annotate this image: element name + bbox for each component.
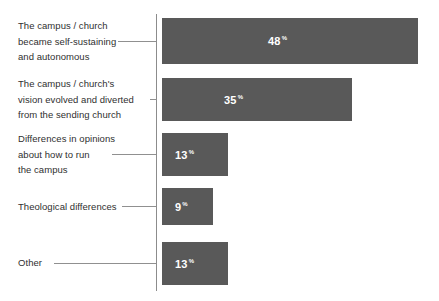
category-label: The campus / church's vision evolved and… [18,76,166,123]
bar-value-label: 13% [175,258,194,270]
chart-row: Theological differences 9% [0,188,439,225]
chart-row: Other 13% [0,242,439,285]
bar-value-label: 48% [268,35,287,47]
category-label-line: Differences in opinions [18,131,166,147]
percent-symbol: % [189,149,195,155]
plot-area: The campus / church became self-sustaini… [0,0,439,301]
bar-48: 48% [162,18,418,64]
category-label-line: and autonomous [18,49,166,65]
percent-symbol: % [189,258,195,264]
bar-value-number: 35 [224,93,237,105]
bar-13-opinions: 13% [162,133,228,176]
percent-symbol: % [282,35,288,41]
chart-row: Differences in opinions about how to run… [0,133,439,176]
bar-value-label: 13% [175,149,194,161]
leader-line [112,154,156,155]
leader-line [122,206,156,207]
chart-row: The campus / church became self-sustaini… [0,18,439,64]
leader-line [118,41,156,42]
bar-chart: The campus / church became self-sustaini… [0,0,439,301]
bar-35: 35% [162,78,352,121]
category-label-line: The campus / church [18,18,166,34]
category-label-line: The campus / church's [18,76,166,92]
percent-symbol: % [238,94,244,100]
leader-line [54,263,156,264]
leader-line [150,99,157,100]
category-label-line: vision evolved and diverted [18,92,166,108]
category-label-line: the campus [18,162,166,178]
bar-value-number: 48 [268,35,281,47]
bar-value-label: 9% [175,201,188,213]
category-label-line: from the sending church [18,107,166,123]
bar-value-number: 13 [175,257,188,269]
bar-value-label: 35% [224,94,243,106]
bar-value-number: 13 [175,148,188,160]
bar-9: 9% [162,188,213,225]
chart-row: The campus / church's vision evolved and… [0,78,439,121]
bar-value-number: 9 [175,200,181,212]
percent-symbol: % [182,201,188,207]
bar-13-other: 13% [162,242,228,285]
